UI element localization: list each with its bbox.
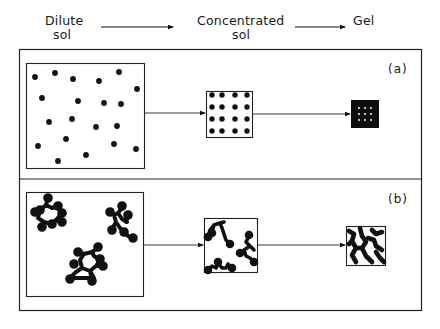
particle [358,113,360,115]
particle [111,141,117,147]
particle [358,107,360,109]
diagram-canvas [0,0,440,329]
particle [55,158,61,164]
particle [209,116,214,121]
particle [364,119,366,121]
particle [101,100,107,106]
particle [93,124,99,130]
particle [244,104,249,109]
panel-b [27,193,386,297]
particle [209,92,214,97]
particle [75,98,81,104]
particle [219,104,224,109]
particle [219,116,224,121]
particle [69,116,75,122]
particle [32,74,38,80]
particle [219,128,224,133]
sol-gel-diagram: Dilute sol Concentrated sol Gel (a) (b) [0,0,440,329]
panel-a [27,64,380,169]
particle [244,92,249,97]
particle [209,128,214,133]
particle [133,146,139,152]
particle [232,116,237,121]
particle [358,119,360,121]
particle [39,95,45,101]
particle [116,69,122,75]
particle [370,113,372,115]
particle [96,78,102,84]
particle [364,113,366,115]
particle [244,116,249,121]
particle [370,119,372,121]
particle [63,136,69,142]
particle [118,101,124,107]
particle [83,152,89,158]
particle [219,92,224,97]
particle [46,119,52,125]
particle [70,76,76,82]
particle [232,104,237,109]
particle [232,128,237,133]
particle [114,123,120,129]
particle [134,86,140,92]
particle [209,104,214,109]
particle [244,128,249,133]
particle [232,92,237,97]
particle [35,143,41,149]
particle [52,70,58,76]
particle [364,107,366,109]
particle [370,107,372,109]
